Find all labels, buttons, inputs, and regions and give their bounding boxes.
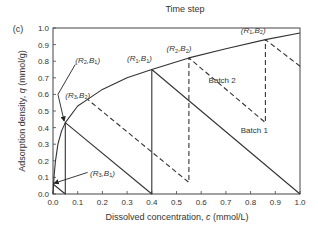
y-tick-label: 0.2 <box>38 157 50 166</box>
y-tick-label: 0.7 <box>38 74 50 83</box>
y-tick-label: 1.0 <box>38 24 50 33</box>
y-tick-label: 0.5 <box>38 107 50 116</box>
y-tick-label: 0.4 <box>38 124 50 133</box>
annotation-label: (R3,B1) <box>90 169 115 179</box>
x-tick-label: 0.2 <box>97 198 109 207</box>
annotation-label: (R2,B2) <box>167 44 192 54</box>
y-tick-label: 0.8 <box>38 57 50 66</box>
y-tick-label: 0.0 <box>38 190 50 199</box>
annotation-label: (R1,B1) <box>127 54 152 64</box>
panel-label: (c) <box>13 24 24 34</box>
y-axis-label: Adsorption density, q (mmol/g) <box>17 50 27 171</box>
x-tick-label: 0.4 <box>146 198 158 207</box>
x-tick-label: 0.5 <box>171 198 183 207</box>
pointer-r3-b1 <box>54 172 87 183</box>
annotation-label: (R3,B2) <box>65 91 90 101</box>
annotation-label: Batch 2 <box>209 76 237 85</box>
x-tick-label: 0.8 <box>245 198 257 207</box>
x-tick-label: 0.9 <box>270 198 282 207</box>
x-tick-label: 0.3 <box>122 198 134 207</box>
x-tick-label: 1.0 <box>294 198 306 207</box>
y-tick-label: 0.6 <box>38 90 50 99</box>
y-tick-label: 0.1 <box>38 173 50 182</box>
annotation-label: (R2,B1) <box>75 56 100 66</box>
y-tick-label: 0.9 <box>38 41 50 50</box>
chart-canvas: Time step (c) 0.00.10.20.30.40.50.60.70.… <box>0 0 318 237</box>
x-tick-label: 0.1 <box>72 198 84 207</box>
y-tick-label: 0.3 <box>38 140 50 149</box>
x-tick-label: 0.7 <box>220 198 232 207</box>
x-tick-label: 0.6 <box>196 198 208 207</box>
x-axis-label: Dissolved concentration, c (mmol/L) <box>105 212 248 222</box>
chart: Time step (c) 0.00.10.20.30.40.50.60.70.… <box>0 0 318 237</box>
annotation-label: (R1,B2) <box>241 26 266 36</box>
series-batch-2 <box>88 40 300 183</box>
chart-title: Time step <box>165 4 204 14</box>
annotation-label: Batch 1 <box>241 126 269 135</box>
x-tick-label: 0.0 <box>47 198 59 207</box>
